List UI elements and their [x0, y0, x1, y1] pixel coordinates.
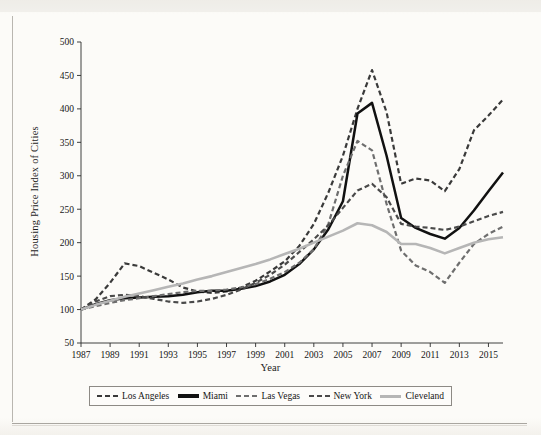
x-tick-label: 1995: [188, 350, 207, 360]
legend-label: Miami: [203, 391, 228, 401]
x-tick-label: 1987: [72, 350, 91, 360]
legend-item-las-vegas[interactable]: Las Vegas: [236, 391, 300, 401]
legend-swatch-icon: [178, 394, 199, 397]
x-tick-label: 2015: [479, 350, 498, 360]
x-tick-label: 1993: [159, 350, 178, 360]
x-tick-label: 1989: [101, 350, 120, 360]
legend-swatch-icon: [309, 395, 330, 398]
legend-item-miami[interactable]: Miami: [178, 391, 228, 401]
legend-swatch-icon: [97, 395, 118, 398]
x-tick-label: 2007: [363, 350, 382, 360]
y-tick-label: 50: [65, 338, 75, 348]
x-tick-label: 1991: [130, 350, 149, 360]
y-tick-label: 450: [60, 71, 75, 81]
x-tick-label: 2013: [450, 350, 469, 360]
x-axis-title: Year: [0, 362, 541, 373]
y-tick-label: 100: [60, 305, 75, 315]
legend-label: New York: [334, 391, 373, 401]
legend-swatch-icon: [236, 395, 257, 398]
legend-label: Cleveland: [405, 391, 444, 401]
legend-swatch-icon: [380, 395, 401, 398]
legend-item-new-york[interactable]: New York: [309, 391, 373, 401]
y-tick-label: 300: [60, 171, 75, 181]
x-tick-label: 1999: [246, 350, 265, 360]
y-tick-label: 500: [60, 37, 75, 47]
x-tick-label: 2001: [275, 350, 294, 360]
legend-label: Las Vegas: [261, 391, 300, 401]
y-tick-label: 250: [60, 205, 75, 215]
y-axis-title: Housing Price Index of Cities: [29, 92, 40, 292]
legend-item-cleveland[interactable]: Cleveland: [380, 391, 444, 401]
x-tick-label: 2005: [333, 350, 352, 360]
x-tick-label: 1997: [217, 350, 236, 360]
legend-item-los-angeles[interactable]: Los Angeles: [97, 391, 169, 401]
series-line-new-york: [81, 184, 503, 310]
x-tick-label: 2011: [421, 350, 440, 360]
legend-label: Los Angeles: [122, 391, 169, 401]
x-tick-label: 2003: [304, 350, 323, 360]
y-tick-label: 150: [60, 272, 75, 282]
x-tick-label: 2009: [392, 350, 411, 360]
figure: 5010015020025030035040045050019871989199…: [0, 0, 541, 435]
series-line-los-angeles: [81, 70, 503, 309]
chart-legend: Los AngelesMiamiLas VegasNew YorkClevela…: [89, 386, 452, 406]
y-tick-label: 400: [60, 104, 75, 114]
y-tick-label: 200: [60, 238, 75, 248]
y-tick-label: 350: [60, 138, 75, 148]
series-line-las-vegas: [81, 141, 503, 310]
